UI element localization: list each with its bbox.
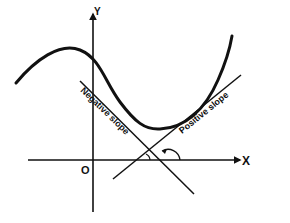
- slope-diagram: Y X O Negative slope Positive slope: [0, 0, 290, 223]
- positive-slope-label: Positive slope: [177, 90, 230, 136]
- acute-angle-arc: [146, 154, 150, 160]
- negative-slope-label: Negative slope: [79, 85, 132, 136]
- y-axis-label: Y: [94, 6, 101, 17]
- x-axis-label: X: [242, 154, 250, 168]
- origin-label: O: [81, 164, 90, 176]
